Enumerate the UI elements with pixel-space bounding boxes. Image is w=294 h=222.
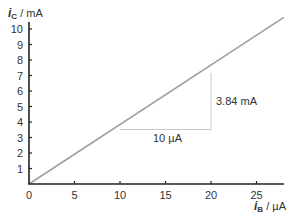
slope-triangle bbox=[120, 73, 211, 130]
y-tick-label: 9 bbox=[17, 39, 23, 51]
dy-annotation: 3.84 mA bbox=[216, 95, 258, 107]
chart: 12345678910 0510152025 iC / mA iB / µA 1… bbox=[0, 0, 294, 222]
x-axis-label: iB / µA bbox=[254, 199, 287, 214]
y-tick-label: 5 bbox=[17, 101, 23, 113]
y-tick-label: 10 bbox=[11, 23, 23, 35]
y-tick-label: 3 bbox=[17, 132, 23, 144]
y-tick-label: 2 bbox=[17, 147, 23, 159]
x-tick-label: 10 bbox=[114, 189, 126, 201]
y-tick-label: 4 bbox=[17, 116, 23, 128]
y-tick-label: 7 bbox=[17, 70, 23, 82]
x-tick-label: 0 bbox=[26, 189, 32, 201]
y-tick-label: 6 bbox=[17, 85, 23, 97]
x-tick-label: 15 bbox=[159, 189, 171, 201]
y-axis-label: iC / mA bbox=[8, 6, 43, 21]
x-tick-label: 20 bbox=[205, 189, 217, 201]
dx-annotation: 10 µA bbox=[153, 132, 183, 144]
y-tick-label: 1 bbox=[17, 163, 23, 175]
y-tick-label: 8 bbox=[17, 54, 23, 66]
x-tick-label: 5 bbox=[71, 189, 77, 201]
